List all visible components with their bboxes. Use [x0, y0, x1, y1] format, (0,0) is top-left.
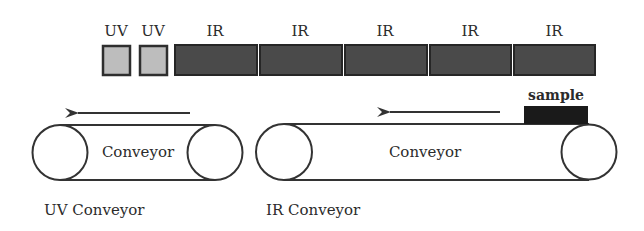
ir-conveyor: Conveyor — [256, 124, 617, 180]
ir-roller-left — [256, 124, 312, 180]
uv-conveyor: Conveyor — [33, 125, 243, 180]
lamp-label-ir-2: IR — [291, 22, 309, 40]
uv-ir-curing-diagram: UV UV IR IR IR IR IR Conveyor Conveyor — [0, 0, 644, 231]
ir-lamp-5 — [514, 45, 595, 75]
uv-roller-left — [33, 125, 88, 180]
ir-lamp-2 — [260, 45, 342, 75]
uv-belt-label: Conveyor — [102, 143, 175, 161]
sample-block — [524, 106, 588, 124]
uv-lamp-1 — [103, 46, 130, 75]
lamp-label-ir-3: IR — [376, 22, 394, 40]
ir-lamp-1 — [175, 45, 257, 75]
lamp-labels: UV UV IR IR IR IR IR — [104, 22, 563, 40]
uv-roller-right — [188, 125, 243, 180]
lamps — [103, 45, 595, 75]
ir-conveyor-caption: IR Conveyor — [266, 201, 361, 219]
lamp-label-uv-1: UV — [104, 22, 129, 40]
ir-roller-right — [562, 125, 617, 180]
lamp-label-ir-1: IR — [206, 22, 224, 40]
sample-label: sample — [528, 87, 584, 103]
ir-lamp-4 — [430, 45, 511, 75]
sample: sample — [524, 87, 588, 124]
uv-conveyor-caption: UV Conveyor — [44, 201, 145, 219]
ir-lamp-3 — [345, 45, 427, 75]
lamp-label-uv-2: UV — [141, 22, 166, 40]
lamp-label-ir-4: IR — [461, 22, 479, 40]
uv-lamp-2 — [140, 46, 167, 75]
ir-belt-label: Conveyor — [389, 143, 462, 161]
lamp-label-ir-5: IR — [545, 22, 563, 40]
